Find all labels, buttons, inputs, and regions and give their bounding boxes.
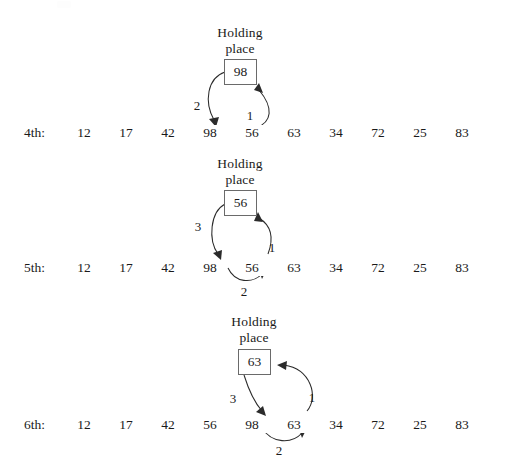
- list-cell: 63: [279, 260, 309, 276]
- arrow-label-step-1: 1: [305, 390, 319, 406]
- arrow-label-step-3: 3: [191, 219, 205, 235]
- panel-6th-pass: Holding place 63 3 1 2 6th: 12 17 42 56 …: [0, 305, 507, 473]
- list-cell: 42: [153, 125, 183, 141]
- row-6th: 6th: 12 17 42 56 98 63 34 72 25 83: [0, 417, 507, 433]
- arrow-1-head-6th: [277, 361, 287, 370]
- list-cell: 98: [237, 417, 267, 433]
- list-cell: 17: [111, 260, 141, 276]
- row-5th: 5th: 12 17 42 98 56 63 34 72 25 83: [0, 260, 507, 276]
- list-cell: 25: [405, 125, 435, 141]
- holding-place-box: 56: [224, 190, 257, 216]
- list-cell: 56: [237, 260, 267, 276]
- holding-place-box: 63: [238, 349, 271, 375]
- arrow-label-step-1: 1: [243, 108, 257, 124]
- arrow-label-step-1: 1: [265, 240, 279, 256]
- holding-place-value: 56: [234, 195, 248, 211]
- list-cell: 25: [405, 260, 435, 276]
- list-cell: 34: [321, 260, 351, 276]
- list-cell: 63: [279, 125, 309, 141]
- list-cell: 72: [363, 260, 393, 276]
- list-cell: 72: [363, 125, 393, 141]
- arrow-label-step-2: 2: [237, 284, 251, 300]
- arrow-3-path-6th: [244, 375, 262, 411]
- list-cell: 56: [195, 417, 225, 433]
- holding-place-value: 98: [234, 64, 248, 80]
- list-cell: 83: [447, 260, 477, 276]
- arrow-layer-6th: [0, 305, 507, 473]
- holding-place-box: 98: [224, 59, 257, 85]
- arrow-layer-5th: [0, 150, 507, 305]
- panel-4th-pass: Holding place 98 2 1 4th: 12 17 42 98 56…: [0, 0, 507, 150]
- list-cell: 12: [69, 260, 99, 276]
- panel-5th-pass: Holding place 56 3 1 2 5th: 12 17 42 98 …: [0, 150, 507, 305]
- list-cell: 17: [111, 417, 141, 433]
- insertion-sort-figure: Holding place 98 2 1 4th: 12 17 42 98 56…: [0, 0, 507, 473]
- list-cell: 42: [153, 417, 183, 433]
- list-cell: 34: [321, 417, 351, 433]
- row-label-6th: 6th:: [24, 417, 45, 433]
- arrow-3-head-5th: [213, 250, 222, 260]
- list-cell: 83: [447, 417, 477, 433]
- arrow-label-step-2: 2: [190, 98, 204, 114]
- arrow-2-path-4th: [208, 72, 225, 120]
- list-cell: 56: [237, 125, 267, 141]
- arrow-label-step-3: 3: [226, 391, 240, 407]
- list-cell: 34: [321, 125, 351, 141]
- list-cell: 83: [447, 125, 477, 141]
- list-cell: 72: [363, 417, 393, 433]
- list-cell: 25: [405, 417, 435, 433]
- list-cell: 42: [153, 260, 183, 276]
- list-cell: 17: [111, 125, 141, 141]
- list-cell: 98: [195, 260, 225, 276]
- arrow-3-head-6th: [256, 406, 266, 416]
- row-4th: 4th: 12 17 42 98 56 63 34 72 25 83: [0, 125, 507, 141]
- list-cell: 63: [279, 417, 309, 433]
- arrow-label-step-2: 2: [272, 443, 286, 459]
- arrow-1-path-4th: [256, 90, 269, 128]
- list-cell: 12: [69, 417, 99, 433]
- row-label-5th: 5th:: [24, 260, 45, 276]
- list-cell: 98: [195, 125, 225, 141]
- holding-place-value: 63: [248, 354, 262, 370]
- row-label-4th: 4th:: [24, 125, 45, 141]
- list-cell: 12: [69, 125, 99, 141]
